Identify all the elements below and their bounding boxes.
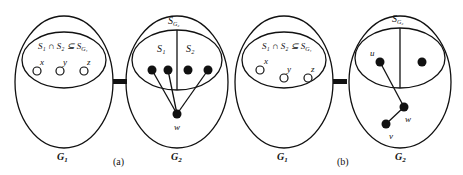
join-connector bbox=[333, 79, 347, 84]
vertex-u-label: u bbox=[370, 48, 375, 58]
graph-g2-a: SG₂ S₁ S₂ w G2 bbox=[126, 15, 228, 164]
vertex-x-label: x bbox=[263, 56, 268, 66]
vertex-z bbox=[304, 74, 312, 82]
set-label: S₁ ∩ S₂ ⊆ SG₁ bbox=[262, 41, 312, 52]
sg2-label: SG₂ bbox=[392, 13, 403, 25]
graph-g1-a: S₁ ∩ S₂ ⊆ SG₁ x y z G1 bbox=[15, 16, 113, 164]
vertex-w bbox=[173, 110, 182, 119]
panel-caption-b: (b) bbox=[337, 156, 349, 168]
sg2-label: SG₂ bbox=[168, 15, 179, 27]
edge bbox=[168, 70, 177, 114]
vertex-z bbox=[80, 67, 88, 75]
edge bbox=[152, 70, 177, 114]
vertex-s2 bbox=[418, 58, 427, 67]
vertex-u bbox=[376, 58, 385, 67]
graph-g1-b: S₁ ∩ S₂ ⊆ SG₁ x y z G1 bbox=[235, 16, 333, 164]
vertex-s2-a bbox=[184, 66, 193, 75]
s2-label: S₂ bbox=[186, 43, 195, 54]
g2-label: G2 bbox=[171, 151, 182, 164]
vertex-y bbox=[56, 67, 64, 75]
vertex-v-label: v bbox=[389, 131, 393, 141]
panel-b: S₁ ∩ S₂ ⊆ SG₁ x y z G1 SG₂ u w v G2 bbox=[235, 13, 451, 168]
vertex-y bbox=[280, 74, 288, 82]
panel-caption-a: (a) bbox=[113, 156, 124, 168]
vertex-v bbox=[382, 120, 391, 129]
graph-g2-b: SG₂ u w v G2 bbox=[349, 13, 451, 164]
g2-label: G2 bbox=[395, 151, 406, 164]
vertex-w-label: w bbox=[174, 122, 180, 132]
set-label: S₁ ∩ S₂ ⊆ SG₁ bbox=[38, 41, 88, 52]
join-connector bbox=[113, 79, 127, 84]
vertex-y-label: y bbox=[286, 64, 291, 74]
s1-label: S₁ bbox=[157, 43, 165, 54]
g1-outer-ellipse bbox=[15, 16, 113, 148]
panel-a: S₁ ∩ S₂ ⊆ SG₁ x y z G1 SG₂ S₁ S₂ bbox=[15, 15, 228, 168]
vertex-x-label: x bbox=[39, 57, 44, 67]
vertex-w-label: w bbox=[405, 114, 411, 124]
g1-label: G1 bbox=[57, 151, 68, 164]
vertex-s1-b bbox=[164, 66, 173, 75]
g1-label: G1 bbox=[277, 151, 288, 164]
vertex-s1-a bbox=[148, 66, 157, 75]
vertex-y-label: y bbox=[62, 57, 67, 67]
vertex-z-label: z bbox=[310, 64, 315, 74]
vertex-x bbox=[33, 67, 41, 75]
vertex-w bbox=[400, 103, 409, 112]
vertex-s2-b bbox=[204, 66, 213, 75]
vertex-x bbox=[256, 66, 264, 74]
graph-figure: S₁ ∩ S₂ ⊆ SG₁ x y z G1 SG₂ S₁ S₂ bbox=[0, 0, 463, 175]
vertex-z-label: z bbox=[86, 57, 91, 67]
edge bbox=[177, 70, 208, 114]
